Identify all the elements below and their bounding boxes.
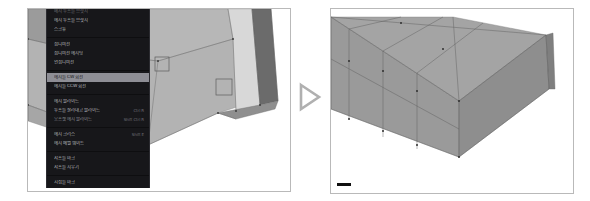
menu-item-label: 언섭디비전 (54, 60, 74, 64)
menu-separator (47, 70, 149, 71)
menu-item[interactable]: 언섭디비전 (47, 58, 149, 67)
menu-item-label: 에지 슬라이드 (54, 99, 79, 103)
menu-item[interactable]: 에지 크리스Shift E (47, 130, 149, 139)
menu-item[interactable]: 스크류 (47, 25, 149, 34)
before-panel: 메지 루프를 브릿지에지 루프를 브릿지스크류섭디비전섭디비전 에지링언섭디비전… (27, 8, 291, 192)
menu-separator (47, 151, 149, 152)
menu-group: 섭디비전섭디비전 에지링언섭디비전 (47, 39, 149, 68)
after-panel (330, 8, 574, 194)
menu-item-label: 에지 루프를 브릿지 (54, 18, 88, 22)
menu-item-label: 에지를 CW 회전 (54, 75, 83, 79)
menu-group: 에지 슬라이드루프를 잘라내고 슬라이드Ctrl R오프셋 에지 슬라이드Shi… (47, 96, 149, 125)
menu-item-label: 샤프를 지우기 (54, 165, 79, 169)
menu-group: 샤프를 마크샤프를 지우기 (47, 153, 149, 173)
menu-item[interactable]: 섭디비전 에지링 (47, 49, 149, 58)
menu-item-label: 에지 베벨 웨이트 (54, 141, 84, 145)
menu-item[interactable]: 샤프를 마크 (47, 154, 149, 163)
menu-item[interactable]: 루프를 잘라내고 슬라이드Ctrl R (47, 106, 149, 115)
menu-item-label: 섭디비전 에지링 (54, 51, 83, 55)
menu-item[interactable]: 샤프를 지우기 (47, 163, 149, 172)
menu-item[interactable]: 에지를 CCW 회전 (47, 82, 149, 91)
menu-item[interactable]: 오프셋 에지 슬라이드Shift Ctrl R (47, 115, 149, 124)
panel-bottom-mask (28, 188, 290, 191)
screenshot-root: 메지 루프를 브릿지에지 루프를 브릿지스크류섭디비전섭디비전 에지링언섭디비전… (0, 0, 590, 201)
menu-item-label: 샤프를 마크 (54, 156, 75, 160)
menu-item-label: 시접를 마크 (54, 180, 75, 184)
scale-marker (337, 183, 351, 186)
menu-item-label: 에지 크리스 (54, 132, 75, 136)
transition-arrow (296, 82, 322, 112)
menu-item-shortcut: Ctrl R (129, 109, 144, 113)
menu-item[interactable]: 에지 루프를 브릿지 (47, 16, 149, 25)
menu-item-label: 메지 루프를 브릿지 (54, 9, 88, 13)
menu-item-shortcut: Shift Ctrl R (120, 118, 144, 122)
menu-separator (47, 94, 149, 95)
menu-item[interactable]: 메지 루프를 브릿지 (47, 8, 149, 16)
menu-item-label: 루프를 잘라내고 슬라이드 (54, 108, 100, 112)
menu-group: 에지를 CW 회전에지를 CCW 회전 (47, 72, 149, 92)
after-viewport[interactable] (331, 9, 573, 193)
after-mesh-svg (331, 9, 573, 193)
menu-item-label: 스크류 (54, 27, 66, 31)
play-triangle-icon (296, 82, 322, 112)
menu-item[interactable]: 에지 베벨 웨이트 (47, 139, 149, 148)
menu-item-label: 오프셋 에지 슬라이드 (54, 117, 92, 121)
menu-item-shortcut: Shift E (128, 133, 144, 137)
menu-item[interactable]: 에지를 CW 회전 (47, 73, 149, 82)
menu-item-label: 섭디비전 (54, 42, 70, 46)
menu-item-label: 에지를 CCW 회전 (54, 84, 86, 88)
menu-group: 메지 루프를 브릿지에지 루프를 브릿지스크류 (47, 8, 149, 35)
menu-item[interactable]: 에지 슬라이드 (47, 97, 149, 106)
menu-group: 에지 크리스Shift E에지 베벨 웨이트 (47, 129, 149, 149)
menu-separator (47, 175, 149, 176)
edge-context-menu[interactable]: 메지 루프를 브릿지에지 루프를 브릿지스크류섭디비전섭디비전 에지링언섭디비전… (46, 8, 150, 192)
menu-separator (47, 37, 149, 38)
menu-item[interactable]: 시접를 마크 (47, 178, 149, 187)
menu-item[interactable]: 섭디비전 (47, 40, 149, 49)
menu-separator (47, 127, 149, 128)
